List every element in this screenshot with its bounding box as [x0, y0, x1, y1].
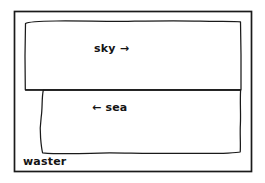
sea-region-shape: [40, 90, 240, 154]
diagram-canvas: sky → ← sea waster: [0, 0, 265, 183]
sky-region-shape: [25, 21, 241, 90]
sky-region-label: sky →: [94, 43, 129, 54]
waster-label: waster: [23, 156, 66, 167]
sea-region-label: ← sea: [92, 102, 127, 113]
